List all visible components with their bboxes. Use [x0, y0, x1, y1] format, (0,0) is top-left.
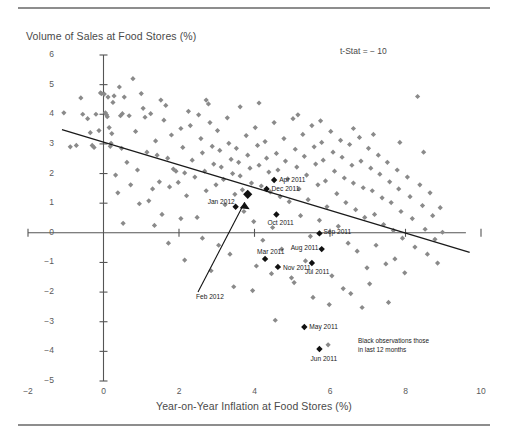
data-point-historic: [398, 209, 403, 214]
data-point-historic: [227, 252, 232, 257]
data-point-historic: [376, 153, 381, 158]
data-point-historic: [155, 153, 160, 158]
data-point-historic: [157, 179, 162, 184]
data-point-historic: [323, 178, 328, 183]
data-point-historic: [383, 261, 388, 266]
point-label-aug-2011: Aug 2011: [291, 244, 319, 252]
data-point-historic: [121, 221, 126, 226]
data-point-historic: [254, 263, 259, 268]
data-point-historic: [178, 216, 183, 221]
data-point-historic: [158, 97, 163, 102]
point-label-dec-2011: Dec 2011: [272, 185, 300, 193]
data-point-historic: [275, 167, 280, 172]
data-point-historic: [287, 199, 292, 204]
data-point-historic: [109, 131, 114, 136]
y-tick-label: 3: [32, 138, 54, 148]
point-label-jan-2012: Jan 2012: [208, 198, 235, 206]
data-point-historic: [180, 145, 185, 150]
data-point-historic: [312, 144, 317, 149]
data-point-historic: [262, 139, 267, 144]
data-point-historic: [255, 143, 260, 148]
data-point-historic: [353, 207, 358, 212]
data-point-recent: [271, 177, 277, 183]
data-point-historic: [88, 130, 93, 135]
point-label-oct-2011: Oct 2011: [267, 219, 293, 227]
data-point-historic: [146, 198, 151, 203]
data-point-historic: [438, 205, 443, 210]
data-point-historic: [128, 182, 133, 187]
y-tick-label: 5: [32, 79, 54, 89]
data-point-historic: [357, 135, 362, 140]
data-point-historic: [328, 129, 333, 134]
data-point-historic: [302, 154, 307, 159]
data-point-historic: [415, 94, 420, 99]
data-point-historic: [198, 136, 203, 141]
data-point-historic: [372, 212, 377, 217]
data-point-historic: [396, 186, 401, 191]
data-point-historic: [247, 166, 252, 171]
data-point-historic: [339, 155, 344, 160]
data-point-historic: [341, 286, 346, 291]
data-point-historic: [274, 151, 279, 156]
data-point-historic: [300, 132, 305, 137]
data-point-historic: [298, 213, 303, 218]
data-point-historic: [412, 244, 417, 249]
x-tick-label: 2: [166, 386, 192, 396]
chart-page: Volume of Sales at Food Stores (%) Year-…: [0, 0, 508, 444]
data-point-historic: [402, 270, 407, 275]
data-point-historic: [190, 158, 195, 163]
data-point-historic: [238, 173, 243, 178]
data-point-historic: [93, 112, 98, 117]
data-point-historic: [313, 161, 318, 166]
data-point-historic: [178, 126, 183, 131]
data-point-historic: [351, 180, 356, 185]
data-point-historic: [386, 300, 391, 305]
data-point-historic: [234, 146, 239, 151]
data-point-historic: [166, 241, 171, 246]
data-point-historic: [184, 193, 189, 198]
data-point-historic: [349, 163, 354, 168]
data-point-historic: [283, 158, 288, 163]
data-point-historic: [110, 100, 115, 105]
data-point-historic: [264, 156, 269, 161]
x-tick-label: 8: [393, 386, 419, 396]
y-tick-label: −5: [32, 375, 54, 385]
data-point-historic: [315, 182, 320, 187]
data-point-historic: [407, 194, 412, 199]
data-point-historic: [309, 123, 314, 128]
point-label-feb-2012: Feb 2012: [196, 293, 224, 301]
data-point-historic: [293, 147, 298, 152]
data-point-historic: [105, 94, 110, 99]
data-point-historic: [397, 140, 402, 145]
historic-points-group: [61, 76, 445, 347]
data-point-historic: [153, 138, 158, 143]
feb2012-leader-line: [198, 202, 245, 292]
data-point-historic: [217, 148, 222, 153]
point-label-sep-2011: Sep 2011: [323, 228, 351, 236]
data-point-historic: [395, 167, 400, 172]
data-point-historic: [281, 136, 286, 141]
data-point-historic: [122, 94, 127, 99]
data-point-historic: [420, 203, 425, 208]
data-point-recent: [316, 230, 322, 236]
data-point-historic: [61, 110, 66, 115]
data-point-historic: [142, 115, 147, 120]
data-point-historic: [250, 288, 255, 293]
data-point-historic: [244, 133, 249, 138]
data-point-historic: [417, 182, 422, 187]
data-point-historic: [430, 213, 435, 218]
data-point-historic: [213, 182, 218, 187]
data-point-historic: [392, 256, 397, 261]
data-point-recent: [316, 346, 322, 352]
data-point-historic: [338, 138, 343, 143]
data-point-historic: [330, 150, 335, 155]
data-point-historic: [364, 265, 369, 270]
data-point-historic: [245, 153, 250, 158]
data-point-historic: [139, 91, 144, 96]
data-point-historic: [115, 190, 120, 195]
data-point-historic: [358, 158, 363, 163]
data-point-historic: [321, 158, 326, 163]
data-point-historic: [68, 144, 73, 149]
y-tick-label: 4: [32, 108, 54, 118]
feb2012-arrowhead: [240, 202, 250, 209]
